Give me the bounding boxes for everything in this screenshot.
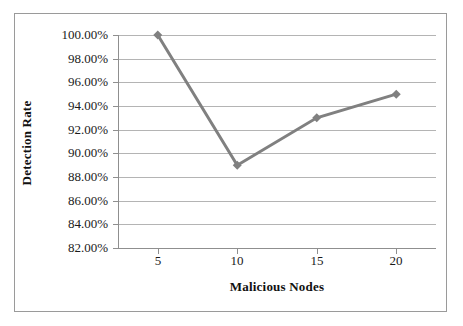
y-tick-label: 94.00% xyxy=(38,99,108,112)
y-tick-label: 92.00% xyxy=(38,123,108,136)
y-tick-label: 98.00% xyxy=(38,52,108,65)
y-tick-label: 84.00% xyxy=(38,217,108,230)
chart-figure: 100.00% 98.00% 96.00% 94.00% 92.00% 90.0… xyxy=(0,0,463,326)
y-tick-label: 96.00% xyxy=(38,75,108,88)
y-tick-label: 88.00% xyxy=(38,170,108,183)
x-tick-label: 5 xyxy=(138,254,178,268)
y-tick-label: 100.00% xyxy=(38,28,108,41)
y-tick-label: 86.00% xyxy=(38,194,108,207)
series-markers xyxy=(153,31,401,170)
x-tick-label: 10 xyxy=(217,254,257,268)
x-axis-title: Malicious Nodes xyxy=(118,279,436,295)
y-tick-label: 90.00% xyxy=(38,146,108,159)
data-series-layer xyxy=(118,35,436,248)
x-axis-line xyxy=(118,248,436,249)
x-tick-label: 15 xyxy=(297,254,337,268)
y-axis-tick-labels: 100.00% 98.00% 96.00% 94.00% 92.00% 90.0… xyxy=(38,0,108,326)
y-tick-label: 82.00% xyxy=(38,241,108,254)
series-line-detection-rate xyxy=(158,35,397,165)
x-tick-label: 20 xyxy=(376,254,416,268)
data-point-marker xyxy=(392,90,401,99)
y-axis-title: Detection Rate xyxy=(19,83,35,203)
